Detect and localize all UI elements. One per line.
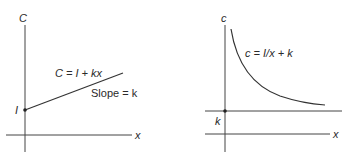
right-y-axis-label: c bbox=[221, 12, 227, 24]
right-figure: c x k c = I/x + k bbox=[205, 12, 342, 152]
left-figure: C x I C = I + kx Slope = k bbox=[6, 12, 141, 152]
intercept-label: I bbox=[15, 104, 18, 116]
hyperbolic-curve bbox=[231, 29, 325, 105]
left-y-axis-label: C bbox=[19, 12, 27, 24]
linear-equation-label: C = I + kx bbox=[55, 67, 103, 79]
asymptote-intercept-point bbox=[223, 109, 227, 113]
left-x-axis-label: x bbox=[134, 129, 141, 141]
hyperbolic-equation-label: c = I/x + k bbox=[245, 47, 293, 59]
diagram-canvas: C x I C = I + kx Slope = k c x k c = I/x… bbox=[0, 0, 352, 160]
slope-label: Slope = k bbox=[91, 87, 138, 99]
asymptote-label: k bbox=[215, 115, 221, 127]
intercept-point bbox=[23, 108, 27, 112]
right-x-axis-label: x bbox=[332, 128, 339, 140]
